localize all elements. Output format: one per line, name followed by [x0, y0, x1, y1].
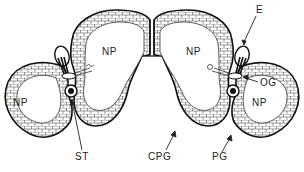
label-np-left-inner: NP [102, 47, 117, 57]
label-e: E [256, 5, 263, 15]
label-pg: PG [212, 152, 227, 162]
anatomical-diagram: NP NP NP NP E OG ST CPG PG [0, 0, 304, 172]
central-left-lobe [71, 10, 150, 126]
left-statocyst [65, 85, 77, 97]
label-np-right-inner: NP [186, 47, 201, 57]
central-right-lobe [154, 10, 233, 126]
label-np-left-outer: NP [13, 98, 28, 108]
label-og: OG [260, 78, 277, 88]
diagram-drawing [0, 0, 304, 172]
label-st: ST [75, 152, 89, 162]
label-cpg: CPG [148, 152, 171, 162]
label-np-right-outer: NP [252, 98, 267, 108]
right-statocyst [227, 85, 239, 97]
